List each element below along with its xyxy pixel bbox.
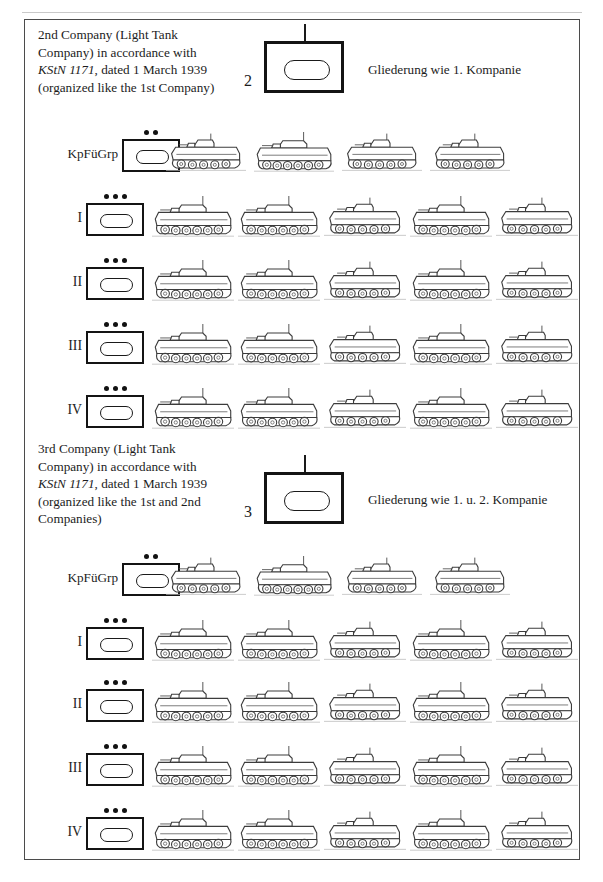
tank-icon-panzer-1 [496,386,578,433]
company-note-2: Gliederung wie 1. Kompanie [368,62,521,78]
tank-icon-panzer-2 [238,322,320,369]
tank-icon-panzer-1 [342,554,422,600]
echelon-dot [153,130,158,135]
unit-symbol [86,384,144,430]
tank-icon-panzer-2 [238,808,320,855]
tank-icon-panzer-1 [324,194,406,241]
unit-symbol-box [86,331,144,364]
echelon-dots [86,806,144,815]
tank-icon-panzer-1 [430,130,510,176]
echelon-dot [113,744,118,749]
tank-icon-panzer-1 [324,680,406,727]
tank-icon-panzer-2 [238,618,320,665]
echelon-dots [86,192,144,201]
echelon-dot [122,386,127,391]
tank-icon-panzer-2 [152,258,234,305]
echelon-dots [86,384,144,393]
unit-symbol-box [86,627,144,660]
tank-icon-panzer-2 [410,258,492,305]
echelon-dot [113,322,118,327]
echelon-dot [122,744,127,749]
unit-label: I [0,210,82,226]
echelon-dots [86,678,144,687]
echelon-dot [113,386,118,391]
echelon-dot [122,808,127,813]
echelon-dot [122,618,127,623]
unit-symbol [86,320,144,366]
armor-oval-icon [100,764,133,778]
company-symbol-stem [304,24,306,41]
tank-icon-panzer-1 [324,808,406,855]
tank-icon-panzer-1 [496,258,578,305]
unit-label: I [0,634,82,650]
tank-icon-panzer-2 [410,744,492,791]
tank-icon-panzer-1 [496,194,578,241]
tank-icon-panzer-1 [496,680,578,727]
echelon-dots [86,742,144,751]
unit-symbol-box [86,753,144,786]
echelon-dot [104,744,109,749]
armor-oval-icon [100,700,133,714]
echelon-dot [122,322,127,327]
tank-icon-panzer-1 [496,744,578,791]
unit-label: III [0,338,82,354]
company-symbol-box [264,472,344,524]
tank-icon-panzer-2 [238,386,320,433]
tank-icon-panzer-1 [324,258,406,305]
tank-icon-panzer-2 [152,744,234,791]
tank-icon-panzer-1 [324,386,406,433]
company-symbol-3: 3 [248,455,368,541]
echelon-dot [113,808,118,813]
tank-icon-panzer-1 [324,618,406,665]
tank-icon-panzer-2 [152,322,234,369]
kstn-reference: KStN 1171 [38,62,95,77]
echelon-dot [122,258,127,263]
unit-symbol-box [86,267,144,300]
echelon-dot [113,258,118,263]
tank-icon-panzer-2 [238,194,320,241]
armor-oval-icon [136,574,169,588]
unit-symbol-box [86,395,144,428]
kstn-reference: KStN 1171 [38,476,95,491]
unit-label: II [0,274,82,290]
page-header-rule [22,12,582,13]
tank-icon-panzer-2 [238,258,320,305]
tank-icon-panzer-2 [254,554,334,600]
unit-symbol [86,256,144,302]
armor-oval-icon [284,491,330,511]
diagram-page: 2nd Company (Light TankCompany) in accor… [0,0,603,882]
echelon-dots [86,320,144,329]
armor-oval-icon [100,278,133,292]
armor-oval-icon [100,638,133,652]
tank-icon-panzer-2 [410,808,492,855]
unit-symbol-box [86,689,144,722]
unit-label: IV [0,402,82,418]
tank-icon-panzer-2 [238,744,320,791]
tank-icon-panzer-1 [166,130,246,176]
echelon-dot [104,258,109,263]
company-note-3: Gliederung wie 1. u. 2. Kompanie [368,492,547,508]
unit-label: IV [0,824,82,840]
company-number-label: 3 [244,503,252,521]
tank-icon-panzer-2 [152,680,234,727]
tank-icon-panzer-2 [254,130,334,176]
echelon-dot [122,680,127,685]
armor-oval-icon [100,828,133,842]
armor-oval-icon [100,214,133,228]
tank-icon-panzer-1 [324,744,406,791]
armor-oval-icon [136,150,169,164]
unit-symbol [86,742,144,788]
unit-symbol [86,806,144,852]
tank-icon-panzer-2 [152,194,234,241]
unit-symbol-box [86,203,144,236]
echelon-dot [104,386,109,391]
tank-icon-panzer-2 [410,618,492,665]
tank-icon-panzer-2 [410,386,492,433]
unit-symbol [86,616,144,662]
tank-icon-panzer-1 [496,808,578,855]
echelon-dot [144,554,149,559]
echelon-dot [104,194,109,199]
unit-label: III [0,760,82,776]
tank-icon-panzer-1 [324,322,406,369]
unit-symbol-box [86,817,144,850]
